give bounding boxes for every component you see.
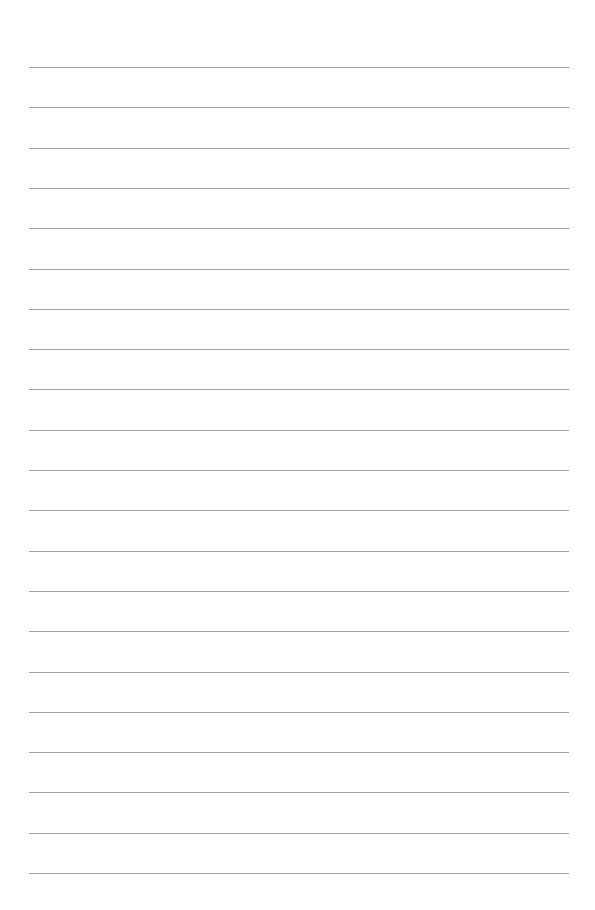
ruled-line xyxy=(29,349,569,350)
ruled-line xyxy=(29,470,569,471)
ruled-line xyxy=(29,309,569,310)
ruled-line xyxy=(29,833,569,834)
ruled-line xyxy=(29,792,569,793)
ruled-line xyxy=(29,389,569,390)
ruled-line xyxy=(29,188,569,189)
ruled-line xyxy=(29,269,569,270)
ruled-line xyxy=(29,873,569,874)
ruled-line xyxy=(29,752,569,753)
ruled-line xyxy=(29,672,569,673)
ruled-line xyxy=(29,107,569,108)
ruled-line xyxy=(29,551,569,552)
ruled-line xyxy=(29,430,569,431)
ruled-line xyxy=(29,510,569,511)
lined-paper-page xyxy=(0,0,595,910)
ruled-line xyxy=(29,591,569,592)
ruled-line xyxy=(29,631,569,632)
ruled-line xyxy=(29,148,569,149)
ruled-line xyxy=(29,67,569,68)
ruled-line xyxy=(29,228,569,229)
ruled-line xyxy=(29,712,569,713)
